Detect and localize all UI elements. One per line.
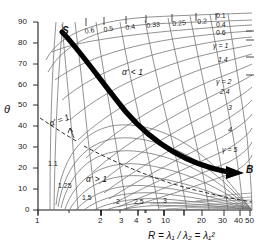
gamma-label-2-4: 2.4 xyxy=(220,88,230,95)
gamma-label-1-4: 1.4 xyxy=(218,56,228,63)
alpha-label-right-0-6: 0.6 xyxy=(216,29,226,36)
endpoint-label-b: B xyxy=(246,165,253,175)
x-axis-ticks xyxy=(38,210,184,215)
y-tick-20: 20 xyxy=(18,164,27,172)
region-label-alpha-gt-1: α' > 1 xyxy=(86,175,107,184)
y-tick-70: 70 xyxy=(18,60,27,68)
y-tick-50: 50 xyxy=(18,101,27,109)
alpha-label-0-33: 0.33 xyxy=(146,21,160,29)
gamma-label-1: γ = 1 xyxy=(213,42,228,49)
alpha-label-0-4: 0.4 xyxy=(125,23,136,31)
trajectory-curve xyxy=(62,32,228,172)
y-tick-0: 0 xyxy=(25,206,29,214)
y-tick-60: 60 xyxy=(18,81,27,89)
x-tick-4: 4 xyxy=(134,217,138,225)
gamma-label-2: γ = 2 xyxy=(216,78,231,85)
x-tick-2: 2 xyxy=(98,217,102,225)
x-tick-3: 3 xyxy=(119,217,123,225)
x-axis-title: R = λ₁ / λ₂ = λ₁² xyxy=(148,231,215,241)
x-tick-5: 5 xyxy=(147,217,151,225)
chart-canvas xyxy=(0,0,273,251)
trajectory-arrowhead xyxy=(226,166,244,179)
alpha-label-0-2: 0.2 xyxy=(197,17,207,25)
y-tick-10: 10 xyxy=(18,185,27,193)
x-tick-10: 10 xyxy=(161,217,170,225)
alpha-label-2-5: 2.5 xyxy=(134,198,144,205)
alpha-label-2: 2 xyxy=(116,198,120,205)
y-tick-30: 30 xyxy=(18,143,27,151)
alpha-label-3: 3 xyxy=(163,197,167,204)
y-axis-title: θ xyxy=(4,104,10,115)
y-tick-80: 80 xyxy=(18,39,27,47)
alpha-label-0-1: 0.1 xyxy=(216,12,226,19)
x-tick-20: 20 xyxy=(197,217,206,225)
y-axis-ticks xyxy=(33,22,38,210)
nomogram-figure: 90 80 70 60 50 40 30 20 10 0 θ 1 2 3 4 5… xyxy=(0,0,273,251)
alpha-label-1-1: 1.1 xyxy=(48,160,58,167)
region-label-alpha-lt-1: α' < 1 xyxy=(122,68,143,77)
gamma-label-4: 4 xyxy=(228,126,232,133)
x-tick-50: 50 xyxy=(245,217,254,225)
gamma-label-3: 3 xyxy=(228,104,232,111)
gamma-label-5: γ = 5 xyxy=(222,146,237,153)
alpha-label-0-25: 0.25 xyxy=(172,19,186,27)
y-tick-90: 90 xyxy=(18,18,27,26)
endpoint-label-s: S xyxy=(62,26,69,36)
alpha-label-1-5: 1.5 xyxy=(82,194,92,201)
x-tick-30: 30 xyxy=(218,217,227,225)
x-tick-40: 40 xyxy=(234,217,243,225)
alpha-label-1-25: 1.25 xyxy=(58,182,72,189)
y-tick-40: 40 xyxy=(18,122,27,130)
alpha-label-right-0-4: 0.4 xyxy=(216,21,226,28)
x-tick-1: 1 xyxy=(35,217,39,225)
